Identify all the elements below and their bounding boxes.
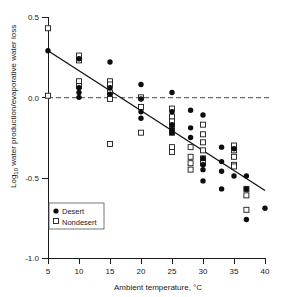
data-point: [244, 186, 249, 191]
data-point: [169, 122, 174, 127]
data-point: [170, 145, 175, 150]
data-point: [244, 193, 249, 198]
data-point: [76, 90, 81, 95]
data-point: [200, 178, 205, 183]
data-point: [231, 146, 236, 151]
data-point: [107, 59, 112, 64]
data-point: [232, 164, 237, 169]
data-point: [76, 85, 81, 90]
y-axis-ticks: 0.5 0.0 -0.5 -1.0: [25, 13, 48, 263]
data-point: [170, 114, 175, 119]
data-point: [244, 207, 249, 212]
y-axis-title-prefix: Log: [9, 175, 18, 188]
y-tick-label-0: 0.5: [28, 13, 40, 22]
legend-marker-nondesert: [54, 219, 59, 224]
data-point: [201, 140, 206, 145]
data-point: [188, 107, 193, 112]
data-point: [201, 132, 206, 137]
data-point: [188, 125, 193, 130]
data-point: [138, 96, 143, 101]
data-point: [262, 205, 267, 210]
legend-label-nondesert: Nondesert: [62, 218, 98, 227]
data-point: [170, 149, 175, 154]
data-point: [188, 161, 193, 166]
series-desert-points: [45, 48, 267, 222]
svg-text:Log10 water production/evapora: Log10 water production/evaporative water…: [9, 25, 19, 188]
data-point: [201, 122, 206, 127]
x-tick-label-3: 20: [137, 267, 146, 276]
data-point: [201, 148, 206, 153]
data-point: [219, 169, 224, 174]
x-tick-label-7: 40: [261, 267, 270, 276]
legend-label-desert: Desert: [62, 207, 85, 216]
x-tick-label-6: 35: [230, 267, 239, 276]
x-axis-title: Ambient temperature, °C: [114, 283, 202, 292]
x-tick-label-4: 25: [168, 267, 177, 276]
data-point: [138, 116, 143, 121]
x-tick-label-5: 30: [199, 267, 208, 276]
legend: Desert Nondesert: [49, 203, 104, 229]
data-point: [107, 85, 112, 90]
data-point: [108, 141, 113, 146]
y-axis-title-suffix: water production/evaporative water loss: [9, 25, 18, 168]
data-point: [244, 173, 249, 178]
x-tick-label-2: 15: [106, 267, 115, 276]
data-point: [77, 79, 82, 84]
data-point: [188, 135, 193, 140]
data-point: [188, 167, 193, 172]
data-point: [200, 167, 205, 172]
data-point: [219, 159, 224, 164]
data-point: [46, 93, 51, 98]
data-point: [46, 26, 51, 31]
x-tick-label-0: 5: [46, 267, 51, 276]
data-point: [169, 130, 174, 135]
data-point: [45, 48, 50, 53]
data-point: [188, 145, 193, 150]
data-point: [138, 109, 143, 114]
data-point: [76, 56, 81, 61]
data-point: [108, 96, 113, 101]
data-point: [231, 173, 236, 178]
data-point: [200, 162, 205, 167]
series-nondesert-points: [46, 26, 249, 213]
data-point: [244, 217, 249, 222]
x-tick-label-1: 10: [75, 267, 84, 276]
chart-figure: Log10 water production/evaporative water…: [0, 0, 288, 297]
data-point: [138, 82, 143, 87]
data-point: [139, 130, 144, 135]
data-point: [139, 104, 144, 109]
data-point: [169, 90, 174, 95]
legend-marker-desert: [53, 208, 58, 213]
data-point: [219, 186, 224, 191]
data-point: [232, 154, 237, 159]
regression-line: [48, 51, 265, 191]
data-point: [219, 144, 224, 149]
data-point: [200, 112, 205, 117]
x-axis-ticks: 5 10 15 20 25 30 35 40: [46, 258, 270, 276]
scatter-plot: Log10 water production/evaporative water…: [0, 0, 288, 297]
data-point: [169, 109, 174, 114]
data-point: [76, 95, 81, 100]
y-tick-label-1: 0.0: [28, 94, 40, 103]
data-point: [200, 156, 205, 161]
data-point: [188, 154, 193, 159]
y-tick-label-2: -0.5: [25, 174, 39, 183]
y-tick-label-3: -1.0: [25, 254, 39, 263]
data-point: [107, 91, 112, 96]
y-axis-title: Log10 water production/evaporative water…: [9, 25, 19, 188]
